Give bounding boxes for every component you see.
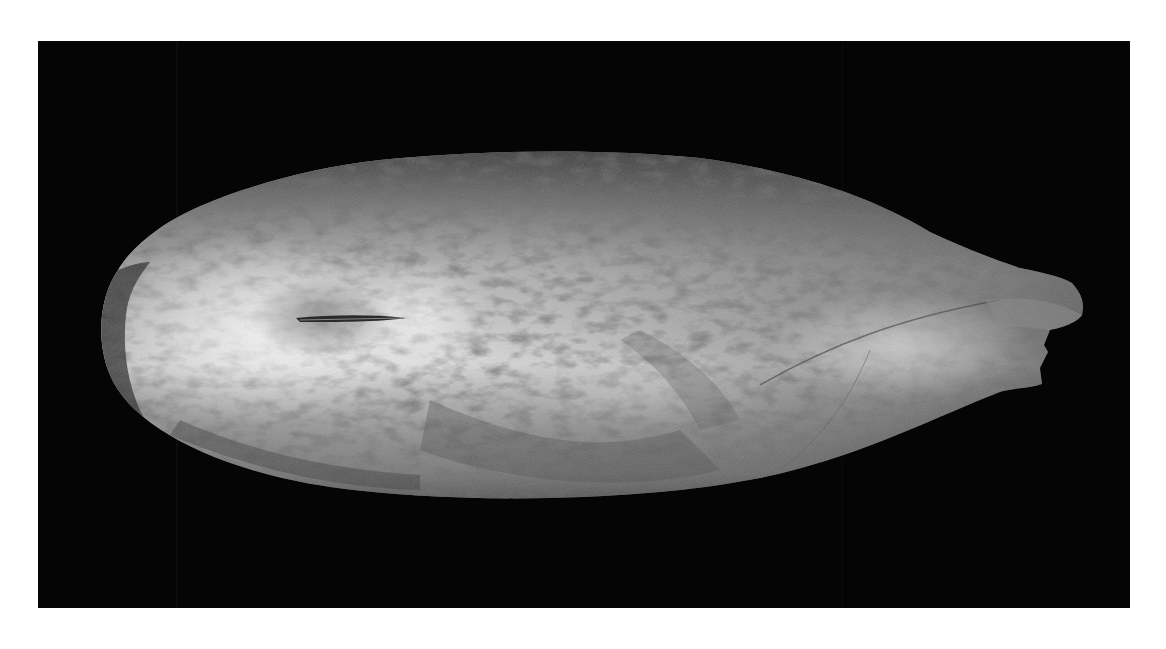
shell-body	[90, 148, 1090, 508]
fossil-shell-photo	[0, 0, 1166, 649]
